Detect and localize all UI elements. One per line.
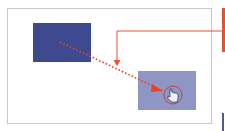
callout-arrow [114,31,224,66]
annotation-overlay [0,0,225,131]
hand-pointer-icon [168,89,178,102]
drag-path-arrow [60,42,163,92]
